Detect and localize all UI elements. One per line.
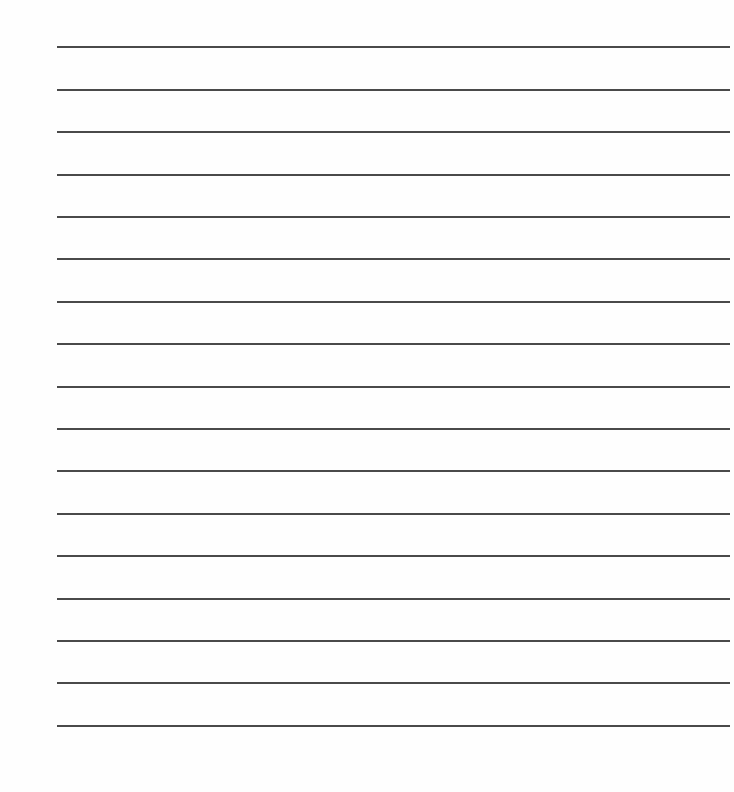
ruled-line xyxy=(57,174,730,176)
ruled-line xyxy=(57,428,730,430)
ruled-line xyxy=(57,682,730,684)
ruled-line xyxy=(57,89,730,91)
ruled-line xyxy=(57,301,730,303)
ruled-line xyxy=(57,555,730,557)
ruled-line xyxy=(57,513,730,515)
ruled-line xyxy=(57,131,730,133)
ruled-line xyxy=(57,640,730,642)
ruled-line xyxy=(57,258,730,260)
ruled-line xyxy=(57,343,730,345)
ruled-line xyxy=(57,386,730,388)
lined-paper xyxy=(0,0,734,792)
ruled-line xyxy=(57,216,730,218)
ruled-line xyxy=(57,598,730,600)
ruled-line xyxy=(57,46,730,48)
ruled-line xyxy=(57,725,730,727)
ruled-line xyxy=(57,470,730,472)
